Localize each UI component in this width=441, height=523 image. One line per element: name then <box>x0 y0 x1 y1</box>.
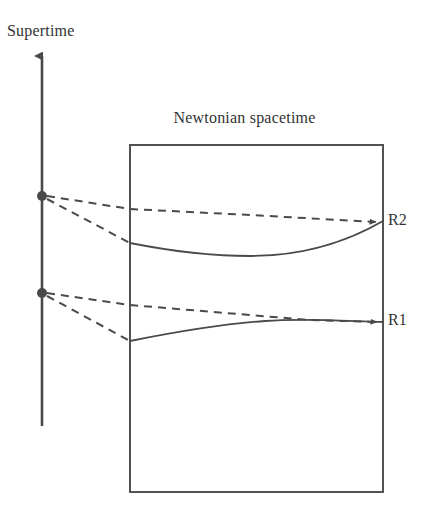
r2-solid-worldline <box>130 221 383 256</box>
newtonian-spacetime-title: Newtonian spacetime <box>0 109 441 127</box>
r2-dashed-lower-line <box>47 199 130 243</box>
r1-solid-worldline <box>130 320 383 341</box>
endpoint-label-r1: R1 <box>388 311 407 329</box>
supertime-point-upper-dot <box>37 191 47 201</box>
diagram-canvas <box>0 0 441 523</box>
r1-dashed-upper-line <box>47 293 377 322</box>
supertime-point-lower-dot <box>37 288 47 298</box>
newtonian-spacetime-title-text: Newtonian spacetime <box>174 109 316 126</box>
newtonian-spacetime-box <box>130 145 383 492</box>
r2-dashed-upper-line <box>47 196 376 222</box>
newtonian-spacetime-diagram: Supertime Newtonian spacetime R2 R1 <box>0 0 441 523</box>
supertime-axis-label: Supertime <box>7 22 75 40</box>
endpoint-label-r2: R2 <box>388 211 407 229</box>
